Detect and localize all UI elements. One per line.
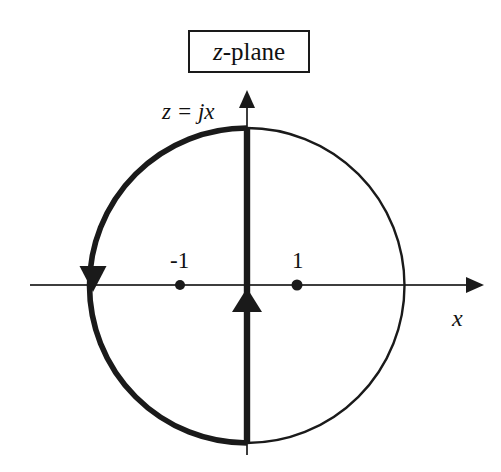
- point-marker-negative-one: [175, 280, 185, 290]
- imaginary-axis-arrowhead-icon: [239, 90, 255, 108]
- z-plane-figure: z-plane z = jx x -1 1: [0, 0, 501, 472]
- point-marker-positive-one: [292, 280, 303, 291]
- title-italic-z: z: [213, 38, 223, 65]
- imaginary-axis-label: z = jx: [162, 100, 215, 123]
- point-label-negative-one: -1: [170, 249, 189, 272]
- real-axis-label: x: [452, 306, 463, 330]
- title-box: z-plane: [188, 30, 310, 73]
- contour-direction-arrow-up-icon: [232, 288, 262, 312]
- title-plain-suffix: -plane: [223, 38, 285, 65]
- page-title: z-plane: [213, 38, 285, 66]
- point-label-positive-one: 1: [292, 249, 304, 272]
- contour-direction-arrow-left-icon: [80, 266, 107, 292]
- real-axis-arrowhead-icon: [466, 277, 484, 293]
